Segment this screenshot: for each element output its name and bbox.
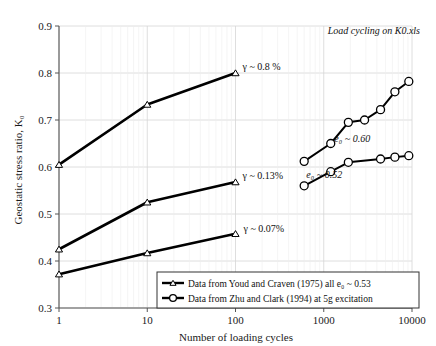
data-point-circle [300, 157, 308, 165]
data-point-circle [391, 88, 399, 96]
data-point-circle [300, 182, 308, 190]
data-point-circle [391, 153, 399, 161]
geostatic-stress-ratio-chart: 0.30.40.50.60.70.80.9110100100010000 γ ~… [0, 0, 436, 346]
figure-note-label: Load cycling on K0.xls [327, 25, 420, 36]
data-point-circle [344, 158, 352, 166]
y-axis-title: Geostatic stress ratio, K₀ [12, 115, 24, 224]
legend-item-label: Data from Zhu and Clark (1994) at 5g exc… [188, 294, 373, 305]
data-point-circle [377, 155, 385, 163]
series-annotation-label: e₀ ~ 0.60 [334, 133, 370, 144]
chart-figure: 0.30.40.50.60.70.80.9110100100010000 γ ~… [0, 0, 436, 346]
x-tick-label: 10 [142, 314, 154, 326]
y-tick-label: 0.3 [38, 302, 52, 314]
legend-item[interactable]: Data from Zhu and Clark (1994) at 5g exc… [162, 294, 373, 305]
legend-item[interactable]: Data from Youd and Craven (1975) all e₀ … [162, 279, 371, 290]
y-tick-label: 0.9 [38, 20, 52, 32]
x-tick-label: 1000 [313, 314, 336, 326]
data-point-circle [344, 118, 352, 126]
y-tick-label: 0.4 [38, 255, 52, 267]
x-tick-label: 100 [227, 314, 244, 326]
y-tick-label: 0.8 [38, 67, 52, 79]
x-axis-title: Number of loading cycles [179, 331, 293, 343]
data-point-circle [361, 116, 369, 124]
series-annotation-label: γ ~ 0.8 % [242, 61, 281, 72]
x-tick-label: 10000 [398, 314, 426, 326]
data-point-circle [377, 106, 385, 114]
series-annotation-label: γ ~ 0.07% [243, 223, 285, 234]
y-tick-label: 0.6 [38, 161, 52, 173]
series-annotation-label: γ ~ 0.13% [242, 170, 284, 181]
series-annotation-label: e₀ ~ 0.52 [306, 169, 342, 180]
chart-legend[interactable]: Data from Youd and Craven (1975) all e₀ … [157, 272, 419, 308]
x-tick-label: 1 [56, 314, 62, 326]
legend-item-label: Data from Youd and Craven (1975) all e₀ … [188, 279, 371, 290]
y-tick-label: 0.7 [38, 114, 52, 126]
data-point-circle [170, 295, 177, 302]
data-point-circle [405, 152, 413, 160]
data-point-circle [405, 77, 413, 85]
y-tick-label: 0.5 [38, 208, 52, 220]
